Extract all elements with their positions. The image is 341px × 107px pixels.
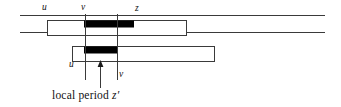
lower-occurrence-group — [73, 47, 215, 62]
local-period-figure: u v z u v local period z′ — [0, 0, 341, 107]
label-top-v: v — [81, 3, 85, 13]
label-bottom-v: v — [119, 70, 123, 80]
label-bottom-u: u — [69, 60, 74, 70]
caption-local-period: local period z′ — [52, 90, 120, 102]
caption-text: local period — [52, 89, 109, 101]
label-top-u: u — [42, 3, 47, 13]
lower-black-bar — [84, 47, 117, 54]
upper-black-bar — [84, 21, 134, 28]
caption-prime: ′ — [117, 89, 120, 101]
local-period-arrow — [98, 60, 104, 88]
label-top-z: z — [135, 4, 139, 14]
